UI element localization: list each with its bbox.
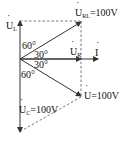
- label-ur: UR: [70, 47, 81, 58]
- label-u: U=100V: [84, 91, 119, 101]
- label-ul: UL: [6, 21, 17, 32]
- label-url: URL=100V: [75, 8, 118, 19]
- label-i: I: [95, 48, 98, 58]
- phasor-diagram: [0, 0, 127, 143]
- angle-60-bottom: 60°: [21, 70, 35, 80]
- label-uc: UC=100V: [19, 105, 58, 116]
- angle-30-bottom: 30°: [34, 60, 48, 70]
